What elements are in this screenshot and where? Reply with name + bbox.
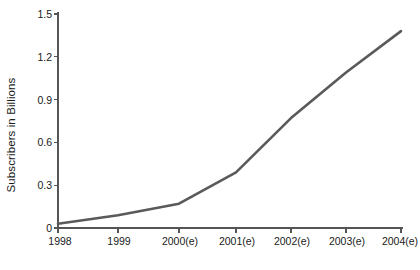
data-series-line <box>58 31 401 224</box>
x-tick-label: 2000(e) <box>162 235 198 247</box>
x-tick-label: 2001(e) <box>219 235 255 247</box>
x-tick-label: 2004(e) <box>382 235 418 247</box>
x-tick-label: 2002(e) <box>274 235 310 247</box>
x-tick-label: 1998 <box>48 235 72 247</box>
y-tick-label: 0 <box>46 222 52 234</box>
x-tick-label: 2003(e) <box>329 235 365 247</box>
line-chart-plot: 1.5 1.2 0.9 0.6 0.3 0 <box>0 0 420 270</box>
chart-container: Subscribers in Billions 1.5 1.2 0.9 0.6 … <box>0 0 420 270</box>
y-tick-label: 0.6 <box>37 136 52 148</box>
y-tick-label: 0.9 <box>37 94 52 106</box>
y-axis-tick-labels: 1.5 1.2 0.9 0.6 0.3 0 <box>37 8 52 234</box>
y-tick-label: 1.2 <box>37 51 52 63</box>
y-tick-label: 0.3 <box>37 179 52 191</box>
y-tick-label: 1.5 <box>37 8 52 20</box>
x-axis-tick-labels: 1998 1999 2000(e) 2001(e) 2002(e) 2003(e… <box>48 235 418 247</box>
x-tick-label: 1999 <box>107 235 131 247</box>
